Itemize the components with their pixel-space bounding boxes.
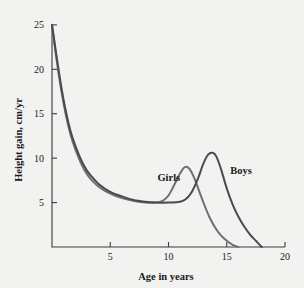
y-axis-title: Height gain, cm/yr (13, 98, 24, 182)
x-tick-label: 20 (280, 251, 290, 262)
y-tick-label: 15 (34, 108, 44, 119)
series-annotations: GirlsBoys (157, 165, 251, 183)
curve-boys (52, 25, 262, 247)
y-tick-labels: 510152025 (34, 19, 44, 208)
series-label-girls: Girls (157, 172, 180, 183)
x-tick-label: 10 (164, 251, 174, 262)
x-tick-label: 15 (222, 251, 232, 262)
axis-lines (52, 25, 285, 247)
axes-group (52, 25, 285, 247)
growth-velocity-chart: 5101520 510152025 GirlsBoys Age in years… (0, 0, 304, 288)
y-tick-label: 25 (34, 19, 44, 30)
y-tick-label: 10 (34, 153, 44, 164)
x-axis-title: Age in years (138, 271, 193, 282)
y-tick-label: 5 (39, 197, 44, 208)
curve-girls (52, 25, 238, 247)
x-tick-label: 5 (108, 251, 113, 262)
x-tick-labels: 5101520 (108, 251, 290, 262)
data-curves (52, 25, 262, 247)
series-label-boys: Boys (230, 165, 252, 176)
chart-canvas: 5101520 510152025 GirlsBoys Age in years… (0, 0, 304, 288)
y-tick-label: 20 (34, 64, 44, 75)
